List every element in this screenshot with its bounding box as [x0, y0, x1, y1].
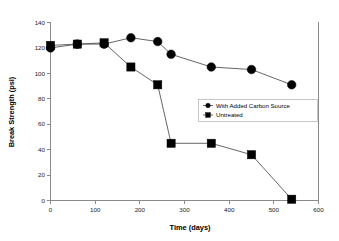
- x-tick-label-200: 200: [135, 206, 146, 213]
- y-tick-label-60: 60: [38, 120, 45, 127]
- x-axis-ticks: 0 100 200 300 400 500 600: [49, 201, 324, 214]
- y-tick-label-120: 120: [35, 44, 46, 51]
- data-point: [207, 63, 216, 72]
- data-point: [247, 151, 255, 159]
- x-axis-title: Time (days): [170, 223, 211, 232]
- legend-circle-icon: [206, 103, 211, 108]
- x-tick-label-0: 0: [49, 206, 53, 213]
- data-point: [167, 50, 176, 59]
- x-tick-label-100: 100: [90, 206, 101, 213]
- x-tick-label-300: 300: [179, 206, 190, 213]
- legend-label-0: With Added Carbon Source: [216, 102, 290, 109]
- data-point: [288, 195, 296, 203]
- line-chart: 0 20 40 60 80 100 120 140 0 100 200: [0, 0, 339, 241]
- data-point: [287, 81, 296, 90]
- data-point: [154, 81, 162, 89]
- legend-label-1: Untreated: [216, 111, 243, 118]
- data-point: [73, 40, 81, 48]
- legend-entry-with-added-carbon-source[interactable]: With Added Carbon Source: [203, 102, 290, 109]
- x-tick-label-500: 500: [269, 206, 280, 213]
- data-point: [100, 39, 108, 47]
- data-point: [153, 37, 162, 46]
- y-tick-label-100: 100: [35, 70, 46, 77]
- series-with-added-carbon-source: [46, 33, 296, 89]
- y-tick-label-80: 80: [38, 95, 45, 102]
- data-point: [207, 139, 215, 147]
- series-line-0: [51, 38, 292, 85]
- legend-square-icon: [206, 113, 211, 118]
- x-tick-label-400: 400: [224, 206, 235, 213]
- y-tick-label-40: 40: [38, 146, 45, 153]
- y-tick-label-140: 140: [35, 19, 46, 26]
- chart-legend: With Added Carbon Source Untreated: [199, 100, 318, 122]
- data-point: [247, 65, 256, 74]
- data-point: [127, 33, 136, 42]
- data-point: [127, 63, 135, 71]
- data-point: [167, 139, 175, 147]
- y-tick-label-20: 20: [38, 171, 45, 178]
- y-tick-label-0: 0: [42, 197, 46, 204]
- data-point: [46, 41, 54, 49]
- x-tick-label-600: 600: [313, 206, 324, 213]
- chart-figure: 0 20 40 60 80 100 120 140 0 100 200: [0, 0, 339, 241]
- y-axis-title: Break Strength (psi): [7, 76, 16, 147]
